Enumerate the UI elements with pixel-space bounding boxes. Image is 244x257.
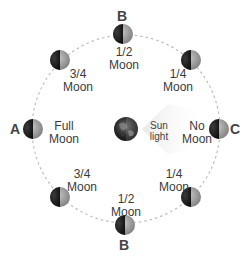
moon-top-left-icon	[50, 50, 70, 70]
label-top-left: 3/4 Moon	[62, 68, 94, 94]
letter-a: A	[10, 122, 20, 136]
label-left-a: Full Moon	[46, 120, 82, 146]
label-top-b: 1/2 Moon	[109, 46, 139, 72]
label-top-right: 1/4 Moon	[162, 68, 194, 94]
letter-b-top: B	[117, 9, 127, 23]
moon-phases-diagram: B A C B 1/2 Moon 3/4 Moon 1/4 Moon Full …	[0, 0, 244, 257]
moon-left-a-icon	[23, 119, 43, 139]
moon-top-b-icon	[113, 24, 133, 44]
label-right-c: No Moon	[180, 120, 214, 146]
letter-c: C	[230, 122, 240, 136]
label-bottom-b: 1/2 Moon	[110, 193, 142, 219]
sunlight-label: Sun light	[146, 120, 172, 142]
label-bottom-left: 3/4 Moon	[66, 168, 98, 194]
label-bottom-right: 1/4 Moon	[158, 168, 190, 194]
letter-b-bottom: B	[119, 238, 129, 252]
earth-icon	[114, 117, 138, 141]
